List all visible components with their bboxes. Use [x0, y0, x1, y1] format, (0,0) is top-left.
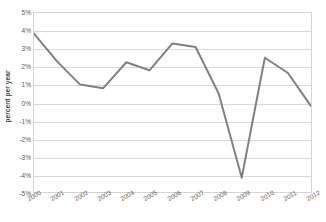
y-tick-label: -4% [11, 171, 31, 178]
y-tick-label: -3% [11, 153, 31, 160]
line-chart: percent per year 5%4%3%2%1%0%-1%-2%-3%-4… [0, 0, 326, 222]
y-tick-label: 2% [11, 63, 31, 70]
y-tick-label: 5% [11, 9, 31, 16]
y-tick-label: -2% [11, 135, 31, 142]
y-tick-label: 4% [11, 27, 31, 34]
series-line [34, 13, 311, 192]
x-axis-tick-labels: 2000200120022003200420052006200720082009… [33, 193, 312, 222]
y-tick-label: -1% [11, 117, 31, 124]
series-polyline [34, 34, 311, 178]
y-axis-title-label: percent per year [4, 70, 11, 122]
y-tick-label: 1% [11, 81, 31, 88]
y-axis-tick-labels: 5%4%3%2%1%0%-1%-2%-3%-4%-5% [11, 0, 31, 222]
y-tick-label: 3% [11, 45, 31, 52]
plot-area [33, 12, 312, 193]
y-tick-label: 0% [11, 99, 31, 106]
